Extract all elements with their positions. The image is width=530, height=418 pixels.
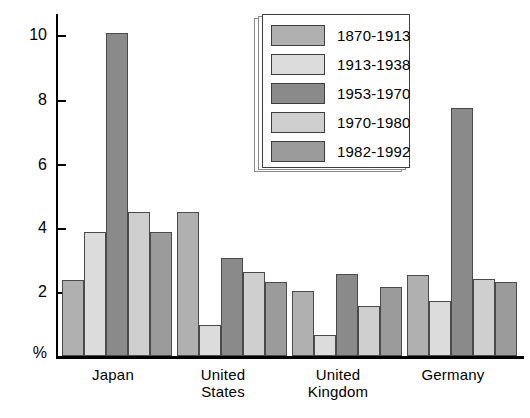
bar (495, 282, 517, 356)
category-line: Japan (58, 366, 168, 383)
legend: 1870-19131913-19381953-19701970-19801982… (262, 14, 410, 168)
bar (84, 232, 106, 356)
legend-swatch-icon (271, 112, 325, 133)
bar (106, 33, 128, 356)
x-axis-line (56, 356, 524, 359)
legend-label: 1982-1992 (337, 144, 411, 159)
legend-item-1913-1938[interactable]: 1913-1938 (263, 50, 409, 78)
bar (150, 232, 172, 356)
category-line: Germany (398, 366, 508, 383)
bar (358, 306, 380, 356)
bar (336, 274, 358, 356)
legend-label: 1913-1938 (337, 57, 411, 72)
legend-swatch-icon (271, 83, 325, 104)
legend-item-1970-1980[interactable]: 1970-1980 (263, 108, 409, 136)
bar (292, 291, 314, 356)
bar (199, 325, 221, 356)
x-category-label-united-states: United States (168, 366, 278, 400)
bar (380, 287, 402, 356)
bar (429, 301, 451, 356)
bar (473, 279, 495, 356)
bar (177, 212, 199, 356)
bar-group-germany (407, 14, 517, 356)
x-category-label-japan: Japan (58, 366, 168, 383)
x-category-label-germany: Germany (398, 366, 508, 383)
legend-label: 1870-1913 (337, 28, 411, 43)
y-tick-label-6: 6 (38, 157, 47, 173)
category-line: United (168, 366, 278, 383)
category-line: Kingdom (283, 383, 393, 400)
bar (221, 258, 243, 356)
bar (128, 212, 150, 356)
bar-chart: 10 8 6 4 2 % Japan United States United … (0, 0, 530, 418)
legend-item-1982-1992[interactable]: 1982-1992 (263, 137, 409, 165)
bar (265, 282, 287, 356)
bar (407, 275, 429, 356)
legend-label: 1953-1970 (337, 86, 411, 101)
y-tick-label-10: 10 (29, 27, 47, 43)
bar (451, 108, 473, 356)
legend-swatch-icon (271, 25, 325, 46)
y-tick-label-4: 4 (38, 220, 47, 236)
legend-swatch-icon (271, 54, 325, 75)
bar (314, 335, 336, 356)
x-category-label-united-kingdom: United Kingdom (283, 366, 393, 400)
y-tick-label-8: 8 (38, 92, 47, 108)
y-axis-unit-label: % (33, 345, 47, 361)
y-axis-labels: 10 8 6 4 2 % (0, 0, 56, 418)
legend-item-1870-1913[interactable]: 1870-1913 (263, 21, 409, 49)
legend-item-1953-1970[interactable]: 1953-1970 (263, 79, 409, 107)
bar (62, 280, 84, 356)
bar (243, 272, 265, 356)
legend-swatch-icon (271, 141, 325, 162)
category-line: States (168, 383, 278, 400)
category-line: United (283, 366, 393, 383)
y-tick-label-2: 2 (38, 284, 47, 300)
legend-label: 1970-1980 (337, 115, 411, 130)
bar-group-japan (62, 14, 172, 356)
